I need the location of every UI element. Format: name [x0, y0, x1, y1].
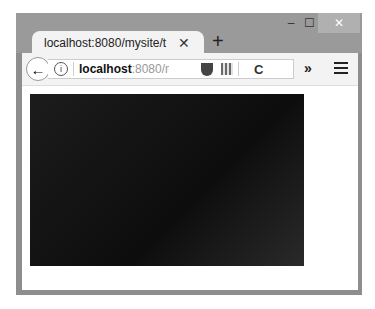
page-content: [22, 85, 358, 290]
title-bar: ‒ ☐ ✕ localhost:8080/mysite/t ✕ +: [16, 13, 362, 53]
url-host: localhost: [79, 62, 132, 76]
shield-icon[interactable]: [201, 63, 213, 76]
browser-window: ‒ ☐ ✕ localhost:8080/mysite/t ✕ + ← i lo…: [16, 13, 362, 295]
url-bar[interactable]: i localhost:8080/mys C: [48, 59, 294, 79]
divider: [73, 62, 74, 76]
close-tab-icon[interactable]: ✕: [178, 35, 190, 51]
close-window-button[interactable]: ✕: [318, 13, 360, 33]
info-icon[interactable]: i: [54, 62, 68, 76]
tab-title: localhost:8080/mysite/t: [44, 36, 174, 50]
overflow-menu-icon[interactable]: »: [304, 60, 312, 76]
hamburger-menu-icon[interactable]: [334, 62, 348, 74]
divider: [238, 62, 239, 76]
new-tab-button[interactable]: +: [212, 31, 224, 51]
browser-tab[interactable]: localhost:8080/mysite/t ✕: [32, 31, 204, 55]
url-rest: :8080/mys: [132, 62, 169, 76]
back-button[interactable]: ←: [26, 57, 50, 81]
navigation-bar: ← i localhost:8080/mys C »: [22, 53, 358, 85]
canvas[interactable]: [30, 94, 304, 266]
reload-icon[interactable]: C: [254, 62, 263, 77]
url-text[interactable]: localhost:8080/mys: [79, 62, 169, 76]
qr-code-icon[interactable]: [221, 63, 233, 75]
